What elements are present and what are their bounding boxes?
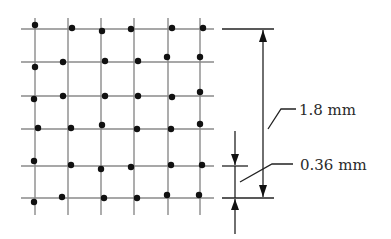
grid-point (31, 158, 37, 164)
grid-point (169, 25, 175, 31)
grid-point (128, 164, 134, 170)
grid-point (99, 122, 105, 128)
grid-point (31, 96, 37, 102)
grid-point (197, 121, 203, 127)
grid-point (169, 94, 175, 100)
grid-point (128, 26, 134, 32)
grid-point (199, 162, 205, 168)
grid-point (164, 192, 170, 198)
grid-point (32, 22, 38, 28)
spacing-dimension-label: 0.36 mm (300, 156, 367, 174)
grid-point (60, 93, 66, 99)
grid-point (196, 192, 202, 198)
grid-point (68, 162, 74, 168)
grid-point (168, 126, 174, 132)
leader-line-spacing (240, 164, 293, 182)
grid-point (35, 125, 41, 131)
grid-point (31, 199, 37, 205)
grid-point (99, 28, 105, 34)
grid-point (134, 195, 140, 201)
leader-line-overall (268, 109, 296, 129)
grid-point (59, 194, 65, 200)
arrowhead-up-icon (259, 30, 267, 42)
grid-lines (21, 18, 214, 215)
grid-point (164, 54, 170, 60)
grid-point (101, 195, 107, 201)
grid-point (168, 162, 174, 168)
grid-point (102, 93, 108, 99)
arrowhead-down-icon (259, 185, 267, 197)
grid-point (134, 126, 140, 132)
grid-dimension-diagram: 1.8 mm 0.36 mm (0, 0, 391, 239)
grid-point (68, 125, 74, 131)
overall-dimension-label: 1.8 mm (299, 101, 356, 119)
grid-point (135, 58, 141, 64)
dimension-annotations (222, 29, 296, 234)
grid-point (135, 93, 141, 99)
grid-point (200, 25, 206, 31)
grid-point (60, 59, 66, 65)
grid-point (98, 166, 104, 172)
grid-point (197, 54, 203, 60)
grid-dots (31, 22, 206, 205)
grid-point (69, 25, 75, 31)
arrowhead-down-icon (231, 154, 239, 165)
grid-point (102, 58, 108, 64)
grid-point (197, 89, 203, 95)
arrowhead-up-icon (231, 199, 239, 210)
grid-point (32, 64, 38, 70)
